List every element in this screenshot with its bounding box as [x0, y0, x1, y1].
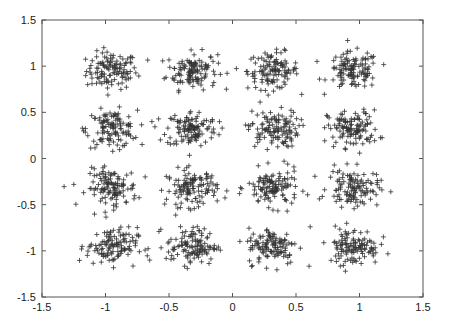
- y-tick-label: -1.5: [17, 291, 36, 303]
- scatter-chart: -1.5-1-0.500.511.5 1.510.50-0.5-1-1.5: [0, 0, 449, 329]
- data-points: [62, 38, 394, 274]
- y-tick-label: 0: [30, 153, 36, 165]
- x-tick-label: 0.5: [288, 301, 303, 313]
- y-tick-label: -1: [26, 245, 36, 257]
- x-tick-label: -0.5: [160, 301, 179, 313]
- y-tick-label: 1.5: [21, 14, 36, 26]
- y-tick-label: 0.5: [21, 106, 36, 118]
- x-tick-label: -1: [101, 301, 111, 313]
- x-tick-label: 0: [229, 301, 235, 313]
- y-tick-label: 1: [30, 60, 36, 72]
- x-axis: -1.5-1-0.500.511.5: [33, 20, 431, 313]
- y-tick-label: -0.5: [17, 199, 36, 211]
- x-tick-label: 1.5: [415, 301, 430, 313]
- y-axis: 1.510.50-0.5-1-1.5: [17, 14, 423, 303]
- plus-markers: [62, 38, 394, 274]
- x-tick-label: 1: [356, 301, 362, 313]
